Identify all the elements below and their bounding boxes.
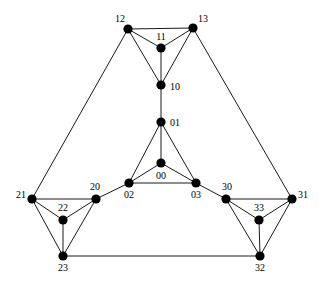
graph-node-31 — [287, 194, 296, 203]
graph-node-label-23: 23 — [58, 262, 68, 273]
graph-node-20 — [91, 194, 100, 203]
graph-node-01 — [156, 117, 165, 126]
graph-node-label-13: 13 — [198, 13, 208, 24]
graph-node-23 — [58, 251, 67, 260]
graph-node-13 — [188, 23, 197, 32]
graph-node-03 — [191, 178, 200, 187]
graph-edge-31-32 — [260, 199, 292, 256]
graph-node-33 — [254, 215, 263, 224]
graph-edge-32-33 — [259, 220, 260, 256]
graph-node-label-32: 32 — [255, 262, 265, 273]
graph-node-21 — [27, 194, 36, 203]
graph-node-label-03: 03 — [191, 189, 201, 200]
graph-node-label-11: 11 — [156, 31, 166, 42]
graph-edge-13-31 — [193, 28, 292, 199]
graph-node-10 — [156, 80, 165, 89]
graph-node-label-02: 02 — [124, 189, 134, 200]
graph-node-02 — [124, 178, 133, 187]
graph-node-label-20: 20 — [90, 181, 100, 192]
graph-node-label-10: 10 — [170, 81, 180, 92]
graph-node-30 — [221, 194, 230, 203]
graph-node-label-00: 00 — [156, 170, 166, 181]
graph-node-32 — [255, 251, 264, 260]
graph-node-label-21: 21 — [16, 189, 26, 200]
graph-node-label-33: 33 — [254, 202, 264, 213]
graph-node-00 — [156, 158, 165, 167]
graph-edge-12-21 — [32, 29, 128, 199]
graph-diagram: 00010203101112132021222330313233 — [0, 0, 323, 290]
graph-canvas: 00010203101112132021222330313233 — [0, 0, 323, 290]
graph-node-label-01: 01 — [170, 117, 180, 128]
graph-node-label-22: 22 — [58, 202, 68, 213]
graph-node-label-12: 12 — [115, 13, 125, 24]
graph-edge-01-03 — [161, 122, 196, 183]
graph-node-11 — [156, 43, 165, 52]
edge-layer — [32, 28, 292, 256]
graph-node-label-31: 31 — [298, 189, 308, 200]
node-layer — [27, 23, 296, 260]
graph-node-12 — [123, 24, 132, 33]
graph-node-label-30: 30 — [222, 181, 232, 192]
graph-node-22 — [58, 215, 67, 224]
graph-edge-12-13 — [128, 28, 193, 29]
